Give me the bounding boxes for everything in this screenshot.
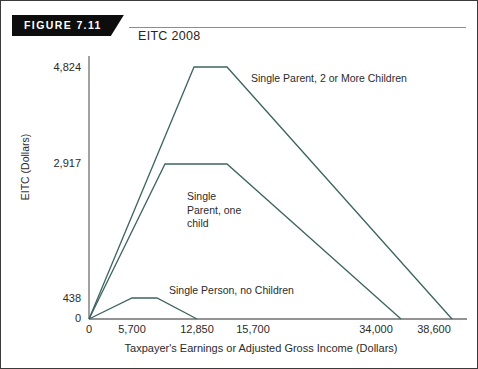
x-tick-label-5700: 5,700 (107, 323, 157, 335)
series-annotation-no-children: Single Person, no Children (169, 284, 294, 298)
y-tick-label-4824: 4,824 (23, 61, 81, 73)
series-annotation-two-or-more-children: Single Parent, 2 or More Children (251, 72, 407, 86)
series-annotation-one-child: Single Parent, one child (187, 190, 241, 231)
y-axis-title: EITC (Dollars) (19, 119, 31, 215)
series-line-two-or-more-children (89, 67, 452, 319)
y-tick-label-438: 438 (31, 292, 81, 304)
figure-panel: FIGURE 7.11 EITC 2008 0 438 2,917 4,824 … (0, 0, 478, 369)
x-tick-label-15700: 15,700 (225, 323, 281, 335)
x-axis-title: Taxpayer's Earnings or Adjusted Gross In… (61, 342, 461, 354)
x-tick-label-38600: 38,600 (406, 323, 462, 335)
y-tick-label-2917: 2,917 (23, 157, 81, 169)
x-tick-label-12850: 12,850 (169, 323, 225, 335)
series-line-no-children (89, 298, 197, 319)
x-tick-label-34000: 34,000 (348, 323, 404, 335)
